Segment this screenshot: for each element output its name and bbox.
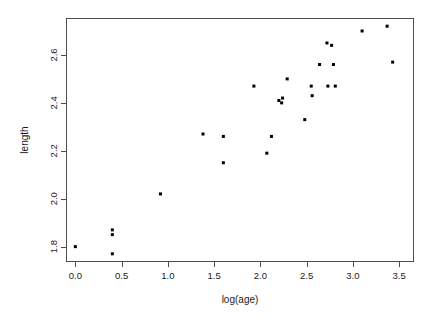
y-tick-label: 2.6 — [49, 48, 60, 61]
data-point — [281, 97, 284, 100]
y-tick-label: 2.2 — [49, 144, 60, 157]
y-tick-label: 2.4 — [49, 96, 60, 109]
data-point — [391, 61, 394, 64]
y-tick-label: 2.0 — [49, 192, 60, 205]
data-point — [334, 85, 337, 88]
data-point — [303, 118, 306, 121]
data-point — [311, 94, 314, 97]
x-tick-label: 1.0 — [161, 270, 174, 281]
x-axis-title: log(age) — [222, 294, 259, 305]
data-point — [280, 101, 283, 104]
y-axis-title: length — [19, 126, 30, 153]
data-point — [111, 252, 114, 255]
data-point — [111, 228, 114, 231]
data-point — [111, 233, 114, 236]
x-tick-label: 0.0 — [69, 270, 82, 281]
data-point — [201, 133, 204, 136]
scatter-plot-figure: 0.00.51.01.52.02.53.03.5 1.82.02.22.42.6… — [0, 0, 438, 318]
data-point — [286, 77, 289, 80]
data-point — [270, 135, 273, 138]
x-tick-label: 2.5 — [300, 270, 313, 281]
x-tick-label: 2.0 — [254, 270, 267, 281]
x-tick-label: 3.5 — [393, 270, 406, 281]
data-point — [310, 85, 313, 88]
data-point — [361, 29, 364, 32]
data-point — [386, 25, 389, 28]
data-point — [74, 245, 77, 248]
y-tick-label: 1.8 — [49, 240, 60, 253]
data-point — [222, 135, 225, 138]
data-point — [252, 85, 255, 88]
data-point — [277, 99, 280, 102]
data-point — [318, 63, 321, 66]
x-tick-label: 3.0 — [346, 270, 359, 281]
data-point — [330, 44, 333, 47]
data-point — [159, 192, 162, 195]
data-point — [325, 41, 328, 44]
data-point — [222, 161, 225, 164]
x-tick-label: 0.5 — [115, 270, 128, 281]
plot-canvas: 0.00.51.01.52.02.53.03.5 1.82.02.22.42.6… — [0, 0, 438, 318]
data-point — [326, 85, 329, 88]
data-point — [265, 152, 268, 155]
data-point — [332, 63, 335, 66]
x-tick-label: 1.5 — [207, 270, 220, 281]
